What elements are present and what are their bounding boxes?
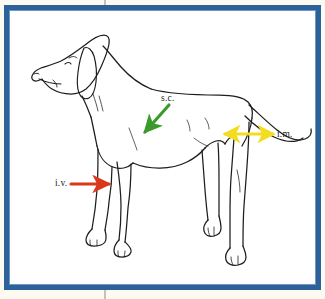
figure-frame-border: s.c. i.m. i.v. [4, 5, 321, 290]
dog-forepaw-off-toe2 [124, 251, 125, 257]
dog-loin-hint [205, 118, 209, 129]
dog-neck-wrinkle-2 [99, 96, 103, 111]
dog-flank-hint [194, 138, 208, 146]
dog-outline-group [32, 35, 312, 265]
dog-forepaw-off [114, 240, 131, 257]
annotation-label-sc: s.c. [161, 94, 174, 104]
dog-brow-wrinkle [69, 57, 77, 59]
dog-hindleg-off-front [202, 150, 208, 220]
dog-foreleg-near-back [105, 167, 112, 230]
dog-forepaw-off-toe1 [118, 251, 119, 257]
dog-hindleg-near-front [230, 138, 234, 248]
annotation-label-iv: i.v. [55, 179, 67, 189]
dog-hindleg-off-back [218, 143, 219, 216]
dog-belly-line [133, 148, 205, 168]
dog-shoulder-muscle [129, 128, 137, 150]
dog-chest-brisket [97, 146, 133, 168]
dog-neck-topline [103, 46, 151, 89]
dog-stifle-curve [225, 136, 234, 144]
dog-ear [77, 47, 96, 98]
dog-hindpaw-near [226, 246, 246, 265]
dog-hock-detail [237, 170, 240, 192]
dog-flank-fold [205, 141, 225, 148]
dog-hindpaw-off [204, 216, 221, 236]
dog-hindpaw-near-toe1 [231, 257, 233, 265]
dog-hindpaw-off-toe1 [208, 228, 210, 236]
dog-neck-wrinkle-1 [93, 94, 98, 111]
dog-line-drawing [9, 10, 316, 285]
dog-head-outline [32, 35, 110, 94]
dog-tail-lower [245, 116, 303, 141]
annotation-label-im: i.m. [277, 130, 293, 140]
dog-eye [65, 63, 71, 65]
dog-rump-hindquarter [242, 118, 252, 146]
dog-nose-detail [34, 73, 39, 74]
dog-foreleg-off-back [125, 164, 131, 242]
dog-rib-hint [187, 120, 190, 131]
figure-page: s.c. i.m. i.v. [0, 0, 325, 299]
sc-arrow-green [145, 105, 169, 132]
figure-canvas: s.c. i.m. i.v. [9, 10, 316, 285]
dog-hindleg-near-back [243, 122, 249, 246]
dog-foreleg-off-front [117, 162, 121, 240]
dog-foreleg-near-front [92, 149, 98, 229]
dog-neck-front [91, 117, 97, 146]
dog-forepaw-near [86, 229, 106, 246]
dog-forepaw-near-toe1 [90, 240, 91, 246]
